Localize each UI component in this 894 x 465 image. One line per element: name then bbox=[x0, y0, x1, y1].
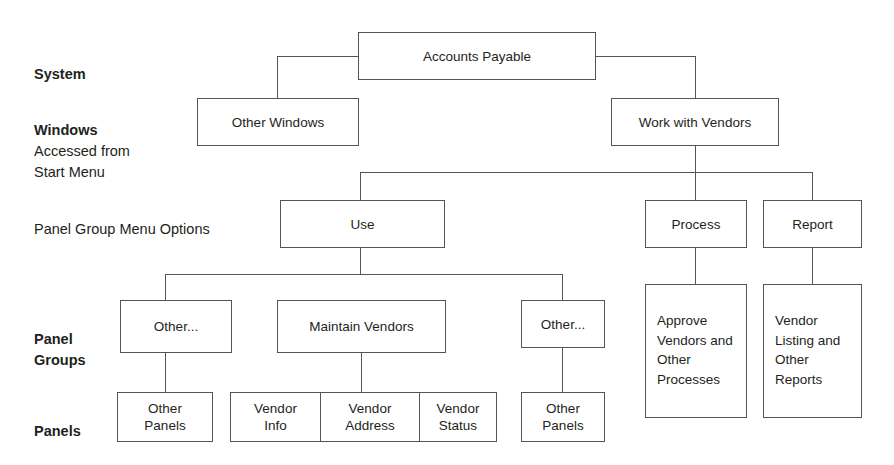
connector-ap-to-other-windows-vertical bbox=[277, 56, 278, 98]
connector-ap-to-wwv-vertical bbox=[695, 56, 696, 98]
node-other-panels-left[interactable]: Other Panels bbox=[117, 392, 213, 442]
connector-report-to-listing bbox=[812, 248, 813, 284]
node-accounts-payable[interactable]: Accounts Payable bbox=[358, 32, 596, 80]
connector-bus-to-other-right bbox=[562, 274, 563, 301]
row-label-panel-groups-text: Panel Groups bbox=[34, 329, 86, 371]
node-report[interactable]: Report bbox=[763, 200, 862, 248]
node-other-left-label: Other... bbox=[154, 318, 198, 335]
node-other-panels-right[interactable]: Other Panels bbox=[521, 392, 605, 442]
connector-bus-to-use bbox=[360, 172, 361, 200]
node-work-with-vendors-label: Work with Vendors bbox=[639, 114, 751, 131]
node-vendor-info[interactable]: Vendor Info bbox=[231, 393, 320, 441]
node-other-windows-label: Other Windows bbox=[232, 114, 324, 131]
node-other-panels-left-label: Other Panels bbox=[144, 400, 185, 434]
connector-maintain-vendors-to-panels bbox=[361, 353, 362, 393]
connector-bus-to-report bbox=[812, 172, 813, 200]
connector-ap-to-wwv-horizontal bbox=[595, 56, 696, 57]
connector-process-to-approve bbox=[695, 248, 696, 284]
connector-other-left-to-panels bbox=[165, 353, 166, 393]
node-maintain-vendors[interactable]: Maintain Vendors bbox=[277, 300, 446, 353]
node-vendor-address[interactable]: Vendor Address bbox=[320, 393, 419, 441]
connector-use-drop bbox=[360, 248, 361, 275]
connector-menu-options-bus bbox=[360, 172, 813, 173]
node-use[interactable]: Use bbox=[280, 200, 445, 248]
node-approve-vendors-and-other-processes[interactable]: Approve Vendors and Other Processes bbox=[645, 284, 747, 418]
node-maintain-vendors-label: Maintain Vendors bbox=[309, 318, 413, 335]
row-label-panel-group-menu-options: Panel Group Menu Options bbox=[34, 198, 210, 240]
row-label-windows: Windows Accessed from Start Menu bbox=[34, 99, 130, 204]
row-label-panel-group-menu-options-text: Panel Group Menu Options bbox=[34, 221, 210, 237]
connector-ap-to-other-windows-horizontal bbox=[277, 56, 359, 57]
node-other-windows[interactable]: Other Windows bbox=[197, 98, 359, 146]
connector-other-right-to-panels bbox=[562, 348, 563, 393]
row-label-windows-text: Windows bbox=[34, 122, 98, 138]
node-vendor-status[interactable]: Vendor Status bbox=[419, 393, 496, 441]
row-label-panels-text: Panels bbox=[34, 423, 81, 439]
connector-panel-groups-bus bbox=[165, 274, 563, 275]
node-vendor-listing-label: Vendor Listing and Other Reports bbox=[775, 311, 840, 389]
node-vendor-listing-and-other-reports[interactable]: Vendor Listing and Other Reports bbox=[763, 284, 862, 418]
panel-strip-maintain-vendors: Vendor Info Vendor Address Vendor Status bbox=[230, 392, 497, 442]
row-label-windows-subtext: Accessed from Start Menu bbox=[34, 141, 130, 183]
node-approve-vendors-label: Approve Vendors and Other Processes bbox=[657, 311, 733, 389]
node-vendor-info-label: Vendor Info bbox=[254, 400, 297, 434]
node-process[interactable]: Process bbox=[645, 200, 747, 248]
connector-wwv-drop bbox=[695, 146, 696, 173]
node-report-label: Report bbox=[792, 216, 833, 233]
connector-bus-to-other-left bbox=[165, 274, 166, 301]
node-other-right-label: Other... bbox=[541, 316, 585, 333]
connector-bus-to-process bbox=[695, 172, 696, 200]
diagram-canvas: System Windows Accessed from Start Menu … bbox=[0, 0, 894, 465]
node-work-with-vendors[interactable]: Work with Vendors bbox=[611, 98, 779, 146]
node-vendor-address-label: Vendor Address bbox=[345, 400, 395, 434]
node-use-label: Use bbox=[350, 216, 374, 233]
node-other-panels-right-label: Other Panels bbox=[542, 400, 583, 434]
node-other-right[interactable]: Other... bbox=[521, 300, 605, 348]
row-label-panels: Panels bbox=[34, 400, 81, 442]
row-label-system-text: System bbox=[34, 66, 86, 82]
row-label-panel-groups: Panel Groups bbox=[34, 308, 86, 392]
row-label-system: System bbox=[34, 43, 86, 85]
node-process-label: Process bbox=[672, 216, 721, 233]
node-vendor-status-label: Vendor Status bbox=[437, 400, 480, 434]
node-other-left[interactable]: Other... bbox=[120, 300, 232, 353]
node-accounts-payable-label: Accounts Payable bbox=[423, 48, 531, 65]
